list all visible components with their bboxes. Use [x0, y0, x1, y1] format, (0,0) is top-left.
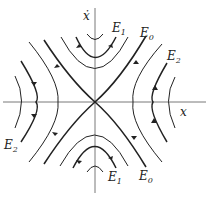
label-e1-bottom: E1: [107, 170, 122, 186]
label-e2-right: E2: [166, 49, 181, 65]
bottom-trajectories: [60, 135, 128, 172]
label-e0-top: E0: [139, 26, 154, 42]
top-trajectories: [61, 34, 128, 69]
label-e2-left: E2: [3, 138, 18, 154]
left-trajectories: [15, 61, 37, 142]
phase-portrait-diagram: ẋ x E1 E0 E2 E2 E1 E0: [0, 0, 211, 198]
y-axis-label: ẋ: [83, 9, 90, 23]
x-axis-label: x: [180, 105, 187, 119]
label-e0-bottom: E0: [138, 169, 153, 185]
label-e1-top: E1: [111, 21, 126, 37]
